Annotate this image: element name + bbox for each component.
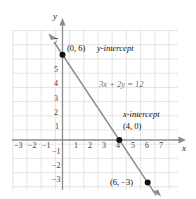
xtick-neg3: −3 (14, 142, 23, 150)
ytick-neg3: −3 (52, 176, 61, 184)
x-intercept-point-label: (4, 0) (123, 122, 141, 131)
xtick-neg2: −2 (28, 142, 37, 150)
x-axis-label: x (182, 144, 186, 153)
xtick-5: 5 (131, 142, 135, 150)
ytick-4: 4 (54, 80, 58, 88)
xtick-neg1: −1 (42, 142, 51, 150)
x-intercept-text-label: x-intercept (123, 110, 160, 119)
ytick-1: 1 (55, 123, 59, 131)
xtick-1: 1 (74, 142, 78, 150)
y-intercept-text-label: y-intercept (97, 44, 134, 53)
y-axis-arrow (59, 18, 65, 26)
ytick-3: 3 (54, 95, 58, 103)
ytick-neg2: −2 (52, 162, 61, 170)
xtick-3: 3 (102, 142, 106, 150)
graph-svg (0, 0, 196, 199)
ytick-7: 7 (54, 38, 58, 46)
point-y-intercept (60, 52, 66, 58)
ytick-neg1: −1 (52, 148, 61, 156)
ytick-2: 2 (54, 109, 58, 117)
y-axis-label: y (53, 12, 57, 21)
ytick-5: 5 (54, 66, 58, 74)
equation-label: 3x + 2y = 12 (99, 80, 144, 89)
coordinate-plane-figure: y x −3 −2 −1 1 2 3 4 5 6 7 7 5 4 3 2 1 −… (0, 0, 196, 199)
xtick-7: 7 (159, 142, 163, 150)
xtick-2: 2 (88, 142, 92, 150)
xtick-6: 6 (145, 142, 149, 150)
point-6-neg3 (145, 180, 151, 186)
third-point-label: (6, −3) (110, 178, 133, 187)
y-intercept-point-label: (0, 6) (67, 44, 85, 53)
xtick-4: 4 (116, 142, 120, 150)
